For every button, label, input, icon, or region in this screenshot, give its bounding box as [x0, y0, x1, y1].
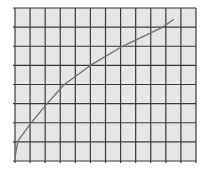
- line-chart: [0, 0, 208, 174]
